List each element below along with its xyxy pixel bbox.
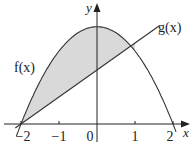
x-tick-label: 2 xyxy=(167,129,174,144)
x-tick-label: 1 xyxy=(132,129,139,144)
x-axis-label: x xyxy=(182,125,189,140)
x-tick-label: −2 xyxy=(16,129,31,144)
x-tick-label: −1 xyxy=(52,129,67,144)
chart-svg: f(x) g(x) x y −2−1012 xyxy=(0,0,194,150)
chart-figure: f(x) g(x) x y −2−1012 xyxy=(0,0,194,150)
y-axis-arrow-icon xyxy=(94,3,101,12)
x-tick-label: 0 xyxy=(87,129,94,144)
f-label: f(x) xyxy=(14,60,35,76)
x-tick-labels: −2−1012 xyxy=(16,129,174,144)
g-label: g(x) xyxy=(158,20,182,36)
shaded-region xyxy=(21,27,135,124)
y-axis-label: y xyxy=(84,0,92,15)
